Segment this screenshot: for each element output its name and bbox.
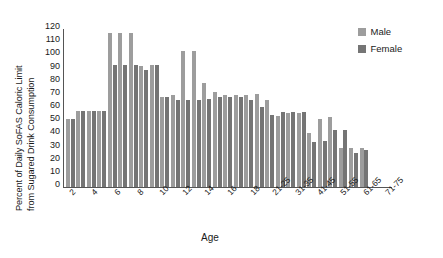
y-axis-tick-label: 80	[38, 75, 60, 84]
bar-group	[339, 29, 348, 187]
plot-area	[63, 29, 392, 188]
bar-group	[234, 29, 243, 187]
bar-female	[239, 97, 243, 187]
bar-group	[108, 29, 117, 187]
bar-female	[249, 100, 253, 187]
y-axis-tick-label: 110	[38, 35, 60, 44]
bar-female	[176, 100, 180, 187]
x-axis-ticks: 2468101214161821-2531-3541-4551-5561-657…	[63, 188, 393, 228]
legend-label: Female	[371, 44, 403, 54]
bar-group	[307, 29, 316, 187]
bar-group	[150, 29, 159, 187]
bar-male	[223, 95, 227, 187]
bar-male	[192, 51, 196, 187]
bar-group	[244, 29, 253, 187]
bar-group	[87, 29, 96, 187]
y-axis-label-line-1: Percent of Daily SoFAS Caloric Limit	[14, 66, 24, 212]
bar-male	[139, 66, 143, 187]
bar-group	[118, 29, 127, 187]
bar-female	[228, 97, 232, 187]
bar-group	[76, 29, 85, 187]
bar-female	[123, 65, 127, 187]
bar-male	[66, 119, 70, 187]
bar-male	[244, 95, 248, 187]
bar-male	[339, 148, 343, 188]
y-axis-tick-label: 0	[38, 180, 60, 189]
bar-female	[302, 112, 306, 187]
bar-female	[81, 111, 85, 187]
legend-swatch-icon	[358, 28, 366, 36]
y-axis-tick-label: 10	[38, 167, 60, 176]
bar-group	[276, 29, 285, 187]
bar-group	[328, 29, 337, 187]
y-axis-tick-label: 40	[38, 127, 60, 136]
chart-legend: MaleFemale	[358, 27, 440, 61]
bar-female	[186, 100, 190, 187]
bar-male	[87, 111, 91, 187]
bar-female	[197, 100, 201, 187]
bar-groups	[64, 29, 392, 187]
bar-female	[113, 65, 117, 187]
legend-label: Male	[371, 27, 392, 37]
bar-male	[171, 95, 175, 187]
bar-female	[165, 97, 169, 187]
chart-figure: Percent of Daily SoFAS Caloric Limit fro…	[0, 0, 443, 258]
bar-male	[234, 95, 238, 187]
bar-group	[286, 29, 295, 187]
y-axis-tick-label: 60	[38, 101, 60, 110]
bar-male	[276, 116, 280, 187]
bar-male	[129, 33, 133, 187]
bar-male	[213, 92, 217, 187]
bar-male	[181, 51, 185, 187]
bar-group	[66, 29, 75, 187]
y-axis-label-line-2: from Sugared Drink Consumption	[26, 78, 36, 211]
bar-male	[76, 111, 80, 187]
y-axis-tick-label: 50	[38, 114, 60, 123]
bar-female	[270, 115, 274, 187]
bar-group	[213, 29, 222, 187]
x-axis-tick-label: 8	[135, 187, 145, 197]
x-axis-tick-label: 6	[112, 187, 122, 197]
y-axis-tick-label: 100	[38, 48, 60, 57]
y-axis-tick-label: 90	[38, 62, 60, 71]
y-axis-label: Percent of Daily SoFAS Caloric Limit fro…	[0, 0, 40, 215]
bar-female	[134, 65, 138, 187]
bar-male	[297, 113, 301, 187]
y-axis-tick-label: 30	[38, 141, 60, 150]
bar-group	[139, 29, 148, 187]
bar-male	[255, 94, 259, 187]
bar-group	[129, 29, 138, 187]
bar-group	[192, 29, 201, 187]
bar-female	[92, 111, 96, 187]
bar-group	[160, 29, 169, 187]
bar-male	[202, 83, 206, 187]
bar-group	[318, 29, 327, 187]
bar-female	[71, 119, 75, 187]
bar-male	[318, 119, 322, 187]
bar-male	[118, 33, 122, 187]
y-axis-tick-label: 20	[38, 154, 60, 163]
bar-male	[265, 100, 269, 187]
bar-female	[102, 111, 106, 187]
bar-female	[144, 70, 148, 187]
legend-item-male: Male	[358, 27, 440, 37]
bar-group	[97, 29, 106, 187]
bar-female	[260, 107, 264, 187]
bar-male	[160, 97, 164, 187]
bar-group	[255, 29, 264, 187]
bar-female	[207, 99, 211, 187]
y-axis-tick-label: 120	[38, 22, 60, 31]
bar-female	[218, 97, 222, 187]
bar-group	[181, 29, 190, 187]
bar-male	[150, 65, 154, 187]
bar-group	[297, 29, 306, 187]
bar-group	[265, 29, 274, 187]
legend-swatch-icon	[358, 45, 366, 53]
y-axis-tick-label: 70	[38, 88, 60, 97]
x-axis-tick-label: 4	[89, 187, 99, 197]
bar-male	[108, 33, 112, 187]
y-axis-ticks: 1201101009080706050403020100	[38, 26, 60, 190]
x-axis-tick-label: 2	[67, 187, 77, 197]
bar-group	[171, 29, 180, 187]
bar-group	[223, 29, 232, 187]
